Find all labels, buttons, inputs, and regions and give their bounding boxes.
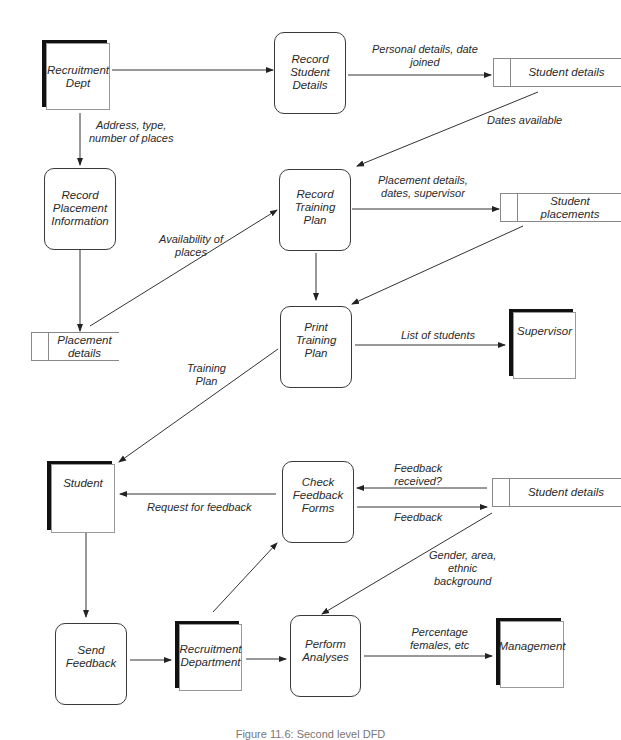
process-send-feedback[interactable]: Send Feedback <box>55 623 127 705</box>
process-record-placement-information[interactable]: Record Placement Information <box>44 168 116 250</box>
store-label: Student placements <box>519 194 621 221</box>
flow-label-personal-details: Personal details, date joined <box>372 43 478 69</box>
store-label: Student details <box>512 59 621 86</box>
flow-label-feedback-received: Feedback received? <box>394 462 442 488</box>
flow-label-percentage-females: Percentage females, etc <box>410 626 469 652</box>
entity-student[interactable]: Student <box>47 461 115 533</box>
flow-label-address-type: Address, type, number of places <box>89 119 173 145</box>
entity-management[interactable]: Management <box>496 618 564 688</box>
store-id-cell <box>32 333 49 360</box>
process-record-training-plan[interactable]: Record Training Plan <box>279 169 351 251</box>
store-placement-details[interactable]: Placement details <box>31 332 119 361</box>
store-student-placements[interactable]: Student placements <box>500 193 621 222</box>
flow-label-feedback: Feedback <box>394 511 442 524</box>
entity-face: Supervisor <box>513 312 576 379</box>
process-label: Record Placement Information <box>51 189 109 228</box>
process-perform-analyses[interactable]: Perform Analyses <box>290 615 361 697</box>
process-label: Perform Analyses <box>302 638 349 664</box>
entity-label: Recruitment Department <box>180 643 242 690</box>
entity-label: Student <box>63 477 103 532</box>
process-label: Send Feedback <box>66 644 117 670</box>
flow-label-dates-available: Dates available <box>487 114 562 127</box>
process-label: Check Feedback Forms <box>293 476 344 515</box>
store-id-cell <box>493 479 510 506</box>
process-print-training-plan[interactable]: Print Training Plan <box>280 306 352 388</box>
entity-label: Supervisor <box>517 325 572 378</box>
flow-label-training-plan: Training Plan <box>187 362 226 388</box>
process-label: Print Training Plan <box>296 321 337 360</box>
entity-face: Management <box>500 621 564 688</box>
store-student-details-bottom[interactable]: Student details <box>492 478 621 507</box>
flow-label-list-of-students: List of students <box>401 329 475 342</box>
store-student-details-top[interactable]: Student details <box>493 58 621 87</box>
store-label: Student details <box>511 479 621 506</box>
process-check-feedback-forms[interactable]: Check Feedback Forms <box>282 461 354 543</box>
entity-face: Recruitment Department <box>179 624 242 691</box>
store-id-cell <box>494 59 511 86</box>
flow-label-request-for-feedback: Request for feedback <box>147 501 252 514</box>
entity-face: Recruitment Dept <box>46 43 110 110</box>
entity-label: Management <box>498 640 565 687</box>
figure-caption: Figure 11.6: Second level DFD <box>0 728 621 740</box>
entity-label: Recruitment Dept <box>47 64 109 109</box>
entity-recruitment-department[interactable]: Recruitment Department <box>175 621 242 691</box>
flow-label-availability-of-places: Availability of places <box>159 233 223 259</box>
store-label: Placement details <box>50 333 119 360</box>
flow-label-gender-area: Gender, area, ethnic background <box>429 549 496 588</box>
entity-supervisor[interactable]: Supervisor <box>509 309 576 379</box>
flow-label-placement-details-dates: Placement details, dates, supervisor <box>378 174 468 200</box>
entity-recruitment-dept[interactable]: Recruitment Dept <box>42 40 110 110</box>
process-label: Record Training Plan <box>295 188 336 227</box>
process-record-student-details[interactable]: Record Student Details <box>274 32 346 114</box>
process-label: Record Student Details <box>290 53 330 92</box>
store-id-cell <box>501 194 518 221</box>
entity-face: Student <box>51 464 115 533</box>
